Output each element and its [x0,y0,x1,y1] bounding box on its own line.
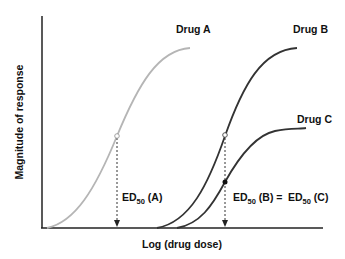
drug-c-ed50-marker [223,180,228,185]
drug-c-curve [177,128,306,228]
ed50-c-label: ED50 (C) [288,191,328,206]
ed50-bc-arrowhead [222,220,228,227]
drug-a-ed50-marker [115,134,120,139]
ed50-b-label: ED50 (B) = [233,191,285,206]
ed50-a-label: ED50 (A) [122,191,162,206]
drug-c-label: Drug C [297,113,332,125]
y-axis-title: Magnitude of response [13,64,25,179]
drug-a-label: Drug A [176,23,211,35]
dose-response-chart: Drug A Drug B Drug C ED50 (A) ED50 (B) =… [0,0,345,259]
x-axis-title: Log (drug dose) [142,238,222,250]
drug-b-ed50-marker [223,133,228,138]
ed50-a-arrowhead [114,220,120,227]
drug-b-label: Drug B [293,23,328,35]
